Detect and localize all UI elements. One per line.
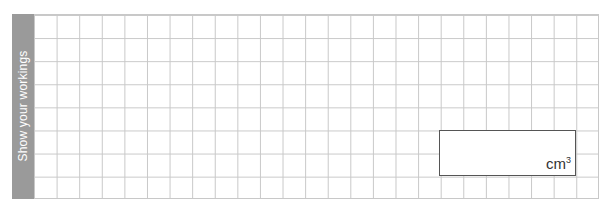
- unit-text: cm: [546, 155, 566, 172]
- unit-label: cm3: [546, 155, 571, 172]
- show-your-workings-label: Show your workings: [16, 51, 30, 162]
- answer-box[interactable]: cm3: [439, 130, 576, 176]
- unit-exponent: 3: [566, 155, 571, 165]
- workings-sidebar: Show your workings: [12, 14, 34, 199]
